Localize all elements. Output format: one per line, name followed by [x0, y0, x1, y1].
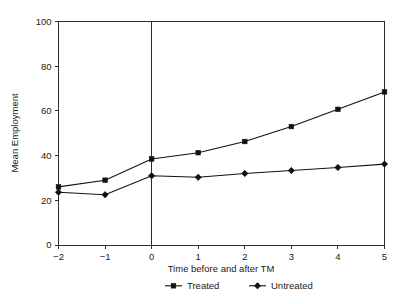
line-chart: 020406080100 −2−1012345 Mean Employment … [0, 0, 400, 304]
plot-frame [59, 22, 385, 246]
x-tick-label: 2 [242, 251, 247, 262]
data-point [289, 124, 294, 129]
y-tick-label: 40 [41, 150, 52, 161]
data-point [242, 170, 248, 176]
data-point [336, 107, 341, 112]
data-point [381, 161, 387, 167]
data-point [102, 192, 108, 198]
data-point [56, 185, 61, 190]
data-point [148, 173, 154, 179]
legend-item-untreated[interactable]: Untreated [249, 280, 313, 291]
x-tick-label: 3 [289, 251, 294, 262]
chart-container: 020406080100 −2−1012345 Mean Employment … [0, 0, 400, 304]
y-axis-ticks: 020406080100 [36, 16, 59, 251]
series-group [55, 90, 387, 198]
series-treated [56, 90, 387, 190]
y-tick-label: 100 [36, 16, 52, 27]
data-point [195, 174, 201, 180]
y-tick-label: 80 [41, 61, 52, 72]
data-point [335, 164, 341, 170]
data-point [103, 178, 108, 183]
data-point [196, 150, 201, 155]
chart-legend: TreatedUntreated [165, 280, 313, 291]
y-tick-label: 0 [46, 239, 51, 250]
x-axis-ticks: −2−1012345 [53, 245, 387, 262]
legend-label: Untreated [271, 280, 313, 291]
legend-marker-square [171, 284, 176, 289]
x-tick-label: 1 [196, 251, 201, 262]
x-tick-label: 5 [382, 251, 387, 262]
data-point [149, 157, 154, 162]
data-point [382, 90, 387, 95]
y-tick-label: 20 [41, 195, 52, 206]
legend-marker-diamond [254, 283, 260, 289]
x-tick-label: −2 [53, 251, 64, 262]
y-axis-title: Mean Employment [9, 93, 20, 173]
x-tick-label: 4 [335, 251, 340, 262]
data-point [288, 167, 294, 173]
y-tick-label: 60 [41, 105, 52, 116]
x-axis-title: Time before and after TM [168, 263, 275, 274]
data-point [55, 189, 61, 195]
x-tick-label: 0 [149, 251, 154, 262]
x-tick-label: −1 [100, 251, 111, 262]
legend-label: Treated [187, 280, 219, 291]
legend-item-treated[interactable]: Treated [165, 280, 219, 291]
data-point [242, 139, 247, 144]
